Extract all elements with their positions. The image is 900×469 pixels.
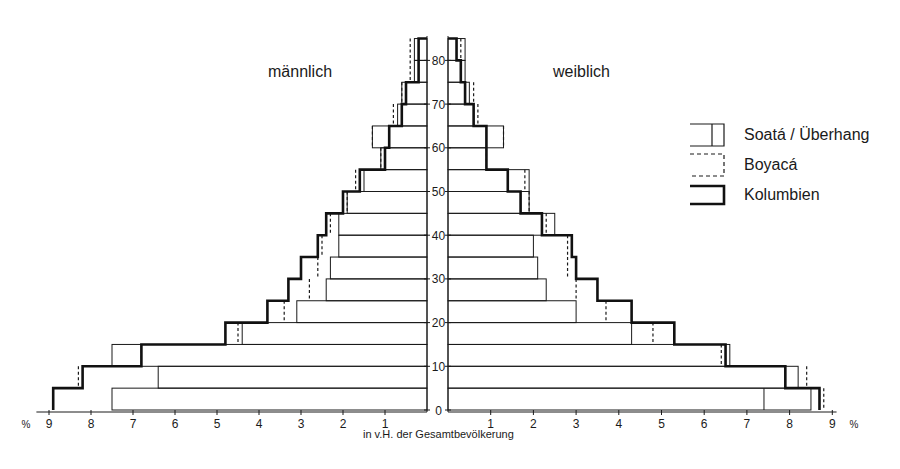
- legend-label-kolumbien: Kolumbien: [744, 186, 820, 204]
- svg-text:6: 6: [172, 417, 179, 431]
- soata-bar: [347, 192, 427, 214]
- soata-bar: [448, 104, 474, 126]
- svg-text:%: %: [22, 419, 31, 430]
- soata-bar: [364, 170, 427, 192]
- soata-bar: [448, 60, 465, 82]
- legend-swatch-soata-icon: [690, 122, 730, 148]
- svg-text:60: 60: [432, 141, 446, 155]
- soata-bar: [448, 279, 546, 301]
- svg-text:70: 70: [432, 98, 446, 112]
- legend-label-boyaca: Boyacá: [744, 156, 797, 174]
- soata-bar: [372, 126, 427, 148]
- soata-bar: [339, 235, 427, 257]
- soata-bar: [297, 301, 427, 323]
- svg-text:50: 50: [432, 185, 446, 199]
- soata-bar: [448, 366, 798, 388]
- soata-bar: [448, 126, 504, 148]
- svg-text:4: 4: [615, 417, 622, 431]
- legend-swatch-boyaca-icon: [690, 152, 730, 178]
- soata-bar: [448, 213, 555, 235]
- svg-text:10: 10: [432, 360, 446, 374]
- svg-text:40: 40: [432, 229, 446, 243]
- svg-text:9: 9: [829, 417, 836, 431]
- soata-bar: [158, 366, 427, 388]
- soata-bar: [242, 323, 427, 345]
- soata-bar: [448, 170, 529, 192]
- svg-text:2: 2: [340, 417, 347, 431]
- kolumbien-outline: [53, 39, 427, 410]
- soata-bar: [326, 279, 427, 301]
- soata-bar: [339, 213, 427, 235]
- soata-bar: [448, 323, 632, 345]
- svg-text:80: 80: [432, 54, 446, 68]
- soata-bar: [112, 388, 427, 410]
- svg-text:30: 30: [432, 272, 446, 286]
- soata-bar: [414, 39, 427, 61]
- svg-text:0: 0: [435, 404, 442, 418]
- svg-text:7: 7: [744, 417, 751, 431]
- female-bars: [448, 39, 824, 410]
- soata-bar: [414, 60, 427, 82]
- soata-bar: [330, 257, 427, 279]
- soata-bar: [381, 148, 427, 170]
- soata-bar: [112, 344, 427, 366]
- svg-text:7: 7: [130, 417, 137, 431]
- legend-label-soata: Soatá / Überhang: [744, 126, 869, 144]
- svg-text:4: 4: [256, 417, 263, 431]
- svg-text:20: 20: [432, 316, 446, 330]
- soata-bar: [448, 344, 730, 366]
- soata-bar: [448, 301, 576, 323]
- svg-text:%: %: [850, 419, 859, 430]
- female-title: weiblich: [553, 63, 610, 81]
- legend-swatch-kolumbien-icon: [690, 182, 730, 208]
- svg-text:3: 3: [573, 417, 580, 431]
- male-title: männlich: [268, 63, 332, 81]
- svg-text:5: 5: [658, 417, 665, 431]
- svg-text:3: 3: [298, 417, 305, 431]
- soata-bar: [448, 257, 538, 279]
- svg-text:8: 8: [786, 417, 793, 431]
- population-pyramid-chart: 987654321123456789%%01020304050607080: [0, 0, 900, 469]
- soata-bar: [448, 148, 486, 170]
- soata-bar: [448, 235, 533, 257]
- svg-text:6: 6: [701, 417, 708, 431]
- soata-bar: [448, 192, 529, 214]
- male-bars: [53, 39, 427, 410]
- svg-text:9: 9: [46, 417, 53, 431]
- svg-text:8: 8: [88, 417, 95, 431]
- kolumbien-outline: [448, 39, 819, 410]
- x-axis-caption: in v.H. der Gesamtbevölkerung: [363, 428, 514, 440]
- svg-text:5: 5: [214, 417, 221, 431]
- soata-bar: [448, 388, 811, 410]
- axes: 987654321123456789%%01020304050607080: [22, 36, 859, 431]
- svg-text:2: 2: [530, 417, 537, 431]
